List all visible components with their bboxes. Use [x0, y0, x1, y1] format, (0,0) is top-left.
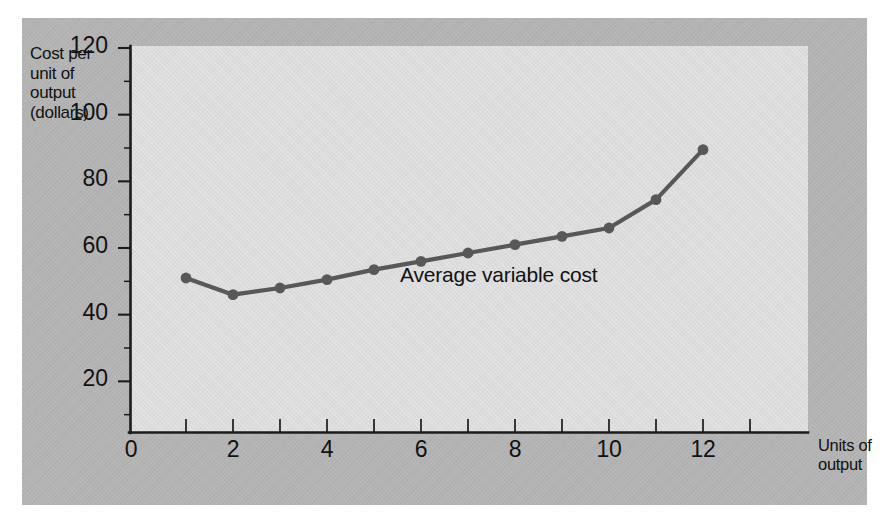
data-point-marker	[557, 231, 568, 242]
x-tick-label: 4	[304, 436, 350, 463]
data-point-marker	[510, 239, 521, 250]
y-axis-title-line-2: unit of	[30, 64, 130, 84]
data-point-marker	[651, 194, 662, 205]
figure-canvas: Cost per unit of output (dollars) Units …	[0, 0, 888, 523]
data-point-marker	[369, 264, 380, 275]
y-tick-label: 40	[48, 299, 108, 326]
x-tick-label: 10	[586, 436, 632, 463]
data-point-marker	[698, 144, 709, 155]
y-tick-label: 60	[48, 232, 108, 259]
y-tick-label: 120	[48, 32, 108, 59]
series-annotation-label: Average variable cost	[400, 263, 597, 287]
x-tick-label: 8	[492, 436, 538, 463]
data-point-marker	[181, 273, 192, 284]
x-tick-label: 2	[210, 436, 256, 463]
x-axis-title-line-1: Units of	[818, 436, 888, 455]
y-tick-label: 80	[48, 165, 108, 192]
y-tick-label: 100	[48, 99, 108, 126]
x-axis-ticks	[186, 419, 750, 432]
x-axis-title: Units of output	[818, 436, 888, 474]
x-axis-title-line-2: output	[818, 455, 888, 474]
origin-tick-label: 0	[108, 436, 154, 463]
data-point-marker	[463, 248, 474, 259]
data-point-marker	[275, 283, 286, 294]
x-tick-label: 6	[398, 436, 444, 463]
data-point-marker	[228, 289, 239, 300]
x-tick-label: 12	[680, 436, 726, 463]
data-point-marker	[604, 223, 615, 234]
y-tick-label: 20	[48, 365, 108, 392]
data-point-marker	[322, 274, 333, 285]
